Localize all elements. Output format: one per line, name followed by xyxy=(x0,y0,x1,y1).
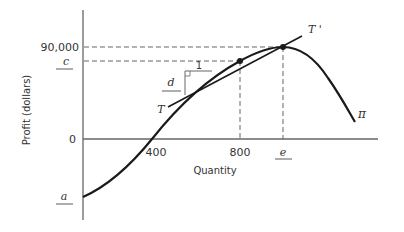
point-max xyxy=(280,44,286,50)
curve-label-pi: π xyxy=(357,107,367,121)
tangent-start-label: T xyxy=(157,103,166,116)
right-angle-mark xyxy=(185,71,190,76)
slope-run-label: 1 xyxy=(196,60,202,71)
y-label-zero: 0 xyxy=(69,133,76,146)
slope-rise-label: d xyxy=(167,76,174,89)
x-label-e: e xyxy=(280,146,287,159)
y-label-a: a xyxy=(61,190,68,203)
x-axis-title: Quantity xyxy=(193,165,236,176)
x-label-400: 400 xyxy=(146,146,167,159)
tangent-end-label: T ' xyxy=(308,23,322,36)
point-800 xyxy=(237,58,243,64)
profit-chart: 90,000 c 0 a Profit (dollars) 400 800 e … xyxy=(0,0,404,232)
y-label-c: c xyxy=(63,55,69,68)
y-axis-title: Profit (dollars) xyxy=(21,75,32,146)
x-label-800: 800 xyxy=(230,146,251,159)
y-label-90000: 90,000 xyxy=(41,41,80,54)
